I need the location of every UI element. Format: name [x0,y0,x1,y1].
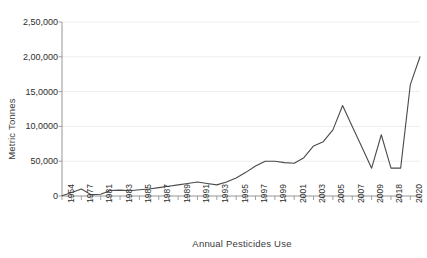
x-axis-tick-label: 1991 [201,184,211,203]
x-axis-tick-label: 2018 [394,184,404,203]
x-axis-tick-label: 1977 [85,184,95,203]
x-axis-tick-label: 1999 [278,184,288,203]
x-axis-tick-label: 1981 [104,184,114,203]
y-axis-tick-label: 2,50,000 [2,17,58,27]
chart-plot-area [0,0,427,258]
y-axis-tick-label: 0 [2,191,58,201]
y-axis-tick-label: 15,0000 [2,87,58,97]
x-axis-tick-label: 1993 [220,184,230,203]
x-axis-tick-label: 1954 [66,184,76,203]
y-axis-tick-label: 2,00,000 [2,52,58,62]
x-axis-tick-label: 2005 [336,184,346,203]
x-axis-tick-label: 2020 [414,184,424,203]
pesticides-use-line-chart: Metric Tonnes 050,00010,000015,00002,00,… [0,0,427,258]
x-axis-tick-label: 1995 [240,184,250,203]
x-axis-tick-label: 2007 [356,184,366,203]
y-axis-tick-labels: 050,00010,000015,00002,00,0002,50,000 [0,0,58,258]
x-axis-tick-label: 2001 [298,184,308,203]
x-axis-tick-label: 2009 [375,184,385,203]
x-axis-tick-label: 1989 [182,184,192,203]
y-axis-tick-label: 10,0000 [2,121,58,131]
x-axis-tick-label: 1987 [162,184,172,203]
x-axis-tick-label: 1983 [124,184,134,203]
x-axis-title: Annual Pesticides Use [62,238,422,249]
y-axis-tick-label: 50,000 [2,156,58,166]
x-axis-tick-label: 2003 [317,184,327,203]
x-axis-tick-label: 1997 [259,184,269,203]
x-axis-tick-label: 1985 [143,184,153,203]
